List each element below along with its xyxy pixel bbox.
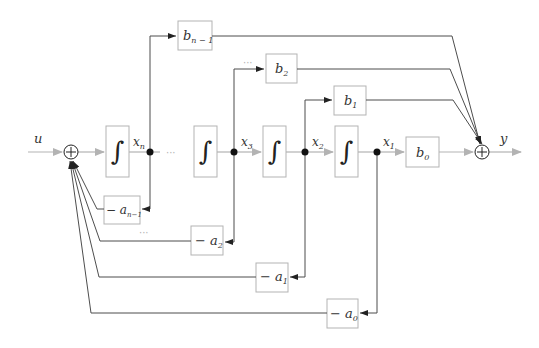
integral-icon: ∫ bbox=[111, 136, 125, 166]
state-label-x2: x2 bbox=[312, 135, 324, 151]
gain-minus-a2: − a2 bbox=[191, 226, 223, 255]
gain-b0: b0 bbox=[406, 137, 439, 167]
output-label: y bbox=[499, 131, 508, 146]
main-ellipsis: ··· bbox=[166, 147, 176, 158]
branch-node-x2 bbox=[302, 149, 309, 156]
integral-icon: ∫ bbox=[268, 136, 282, 166]
gain-minus-a-n-1: − an−1 bbox=[104, 196, 142, 224]
gain-minus-a1: − a1 bbox=[256, 263, 288, 292]
branch-node-x1 bbox=[374, 149, 381, 156]
input-summing-junction bbox=[64, 145, 78, 159]
gain-minus-a0: − a0 bbox=[327, 299, 358, 328]
state-label-x1: x1 bbox=[383, 135, 395, 151]
gain-b2: b2 bbox=[266, 54, 297, 83]
state-label-xn: xn bbox=[133, 135, 145, 151]
integral-icon: ∫ bbox=[340, 136, 354, 166]
integrator-2: ∫ bbox=[263, 126, 286, 177]
integrator-1: ∫ bbox=[335, 126, 358, 177]
branch-node-xn bbox=[147, 149, 154, 156]
input-label: u bbox=[34, 131, 42, 146]
block-diagram: ··· ··· ··· u y ∫ ∫ ∫ ∫ xn x3 x2 x1 bn −… bbox=[0, 0, 539, 348]
gain-b1: b1 bbox=[334, 86, 366, 115]
gain-b-n-1: bn − 1 bbox=[178, 21, 213, 50]
integrator-n: ∫ bbox=[106, 126, 129, 177]
integrator-3: ∫ bbox=[194, 126, 217, 177]
top-ellipsis: ··· bbox=[243, 57, 253, 68]
integral-icon: ∫ bbox=[199, 136, 213, 166]
output-summing-junction bbox=[475, 145, 489, 159]
bottom-ellipsis: ··· bbox=[139, 227, 149, 238]
state-label-x3: x3 bbox=[241, 135, 253, 151]
branch-node-x3 bbox=[231, 149, 238, 156]
